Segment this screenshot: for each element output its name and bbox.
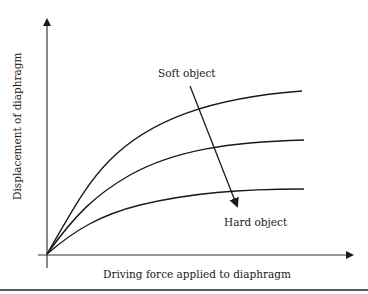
hardness-arrow <box>190 86 237 206</box>
y-axis-label: Displacement of diaphragm <box>11 53 23 200</box>
soft-object-label: Soft object <box>158 67 216 79</box>
diagram-canvas: Soft object Hard object Driving force ap… <box>0 0 368 294</box>
curve-soft <box>47 91 302 254</box>
hard-object-label: Hard object <box>224 216 288 228</box>
x-axis-label: Driving force applied to diaphragm <box>103 268 291 280</box>
curve-mid <box>47 140 304 254</box>
